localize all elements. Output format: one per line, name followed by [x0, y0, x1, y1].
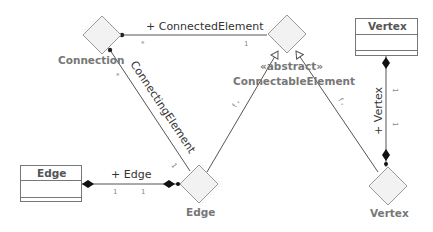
class-edge[interactable]: Edge: [21, 166, 82, 202]
association-end-dot: [108, 48, 112, 52]
association-label: + Edge: [111, 168, 152, 181]
class-name: Edge: [37, 167, 66, 179]
multiplicity: 1: [391, 122, 399, 126]
composition-diamond-icon: [382, 149, 390, 161]
association-connected-element[interactable]: + ConnectedElement * 1: [120, 20, 267, 48]
association-edge[interactable]: + Edge 1 1: [82, 168, 180, 196]
node-label: Vertex: [370, 207, 409, 219]
association-label: + ConnectedElement: [146, 20, 264, 33]
association-label: + Vertex: [372, 86, 385, 135]
composition-diamond-icon: [163, 180, 175, 188]
node-label: Connection: [58, 54, 125, 66]
diamond-shape: [268, 15, 306, 53]
multiplicity: 1: [113, 188, 117, 196]
multiplicity: 1: [244, 40, 248, 48]
association-label: ConnectingElement: [127, 58, 198, 156]
node-stereotype: «abstract»: [260, 60, 323, 72]
multiplicity: *: [116, 72, 120, 80]
composition-diamond-icon: [382, 57, 390, 69]
association-vertex[interactable]: + Vertex 1 1: [372, 56, 399, 167]
node-vertex[interactable]: Vertex: [369, 167, 409, 219]
generalization-label: f ᵥ: [231, 98, 242, 109]
node-edge[interactable]: Edge: [180, 165, 218, 218]
multiplicity: 1: [391, 88, 399, 92]
uml-diagram: + ConnectedElement * 1 ConnectingElement…: [0, 0, 433, 232]
composition-diamond-icon: [82, 180, 94, 188]
diamond-shape: [180, 165, 218, 203]
multiplicity: *: [141, 40, 145, 48]
multiplicity: 1: [141, 188, 145, 196]
generalization-label: f ᵥ: [336, 97, 347, 108]
association-connecting-element[interactable]: ConnectingElement * 1: [108, 48, 199, 171]
node-label: Edge: [186, 206, 215, 218]
node-connection[interactable]: Connection: [58, 16, 125, 66]
node-label: ConnectableElement: [233, 75, 355, 87]
class-vertex[interactable]: Vertex: [356, 19, 418, 56]
association-end-dot: [384, 162, 388, 166]
class-name: Vertex: [368, 20, 407, 32]
diamond-shape: [369, 167, 407, 205]
diamond-shape: [83, 16, 121, 54]
multiplicity: 1: [169, 162, 178, 170]
